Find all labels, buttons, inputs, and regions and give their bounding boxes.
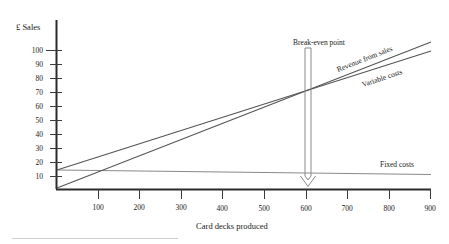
y-tick-label-90: 90 [36, 60, 44, 69]
x-tick-label-200: 200 [133, 203, 145, 212]
series-labels-group: Revenue from sales Variable costs Fixed … [335, 44, 414, 169]
x-tick-label-300: 300 [175, 203, 187, 212]
y-tick-marks [46, 51, 62, 177]
y-tick-label-80: 80 [36, 74, 44, 83]
break-even-arrow-head-inner [305, 176, 311, 180]
axes-group [56, 20, 431, 190]
break-even-arrow [301, 48, 316, 187]
x-tick-label-800: 800 [383, 204, 395, 213]
x-tick-label-500: 500 [258, 204, 270, 213]
series-line-variable-costs [57, 51, 431, 170]
break-even-label: Break-even point [293, 38, 346, 47]
x-tick-label-900: 900 [424, 204, 436, 213]
break-even-arrow-shaft [305, 48, 311, 176]
y-tick-label-60: 60 [36, 102, 44, 111]
chart-canvas: 100 90 80 70 60 50 40 30 20 10 100 200 [0, 0, 449, 244]
y-tick-label-20: 20 [36, 158, 44, 167]
x-tick-labels: 100 200 300 400 500 600 700 800 900 [92, 203, 436, 213]
x-tick-label-100: 100 [92, 203, 104, 212]
y-tick-label-50: 50 [36, 116, 44, 125]
y-tick-label-70: 70 [36, 88, 44, 97]
x-tick-label-400: 400 [216, 204, 228, 213]
y-tick-label-40: 40 [36, 130, 44, 139]
x-tick-label-600: 600 [300, 204, 312, 213]
break-even-arrow-head [301, 176, 316, 187]
series-label-fixed-costs: Fixed costs [380, 160, 414, 169]
break-even-chart: 100 90 80 70 60 50 40 30 20 10 100 200 [0, 0, 449, 244]
y-tick-label-30: 30 [36, 144, 44, 153]
data-series-group [57, 42, 431, 188]
series-label-variable-costs: Variable costs [361, 67, 404, 89]
series-label-revenue-from-sales: Revenue from sales [335, 44, 393, 74]
y-tick-label-100: 100 [32, 46, 44, 55]
x-tick-label-700: 700 [341, 204, 353, 213]
series-line-revenue-from-sales [57, 42, 431, 188]
y-tick-labels: 100 90 80 70 60 50 40 30 20 10 [32, 46, 44, 181]
series-line-fixed-costs [57, 170, 431, 175]
y-tick-label-10: 10 [36, 172, 44, 181]
y-axis-title: £ Sales [16, 22, 40, 32]
x-axis-title: Card decks produced [196, 221, 269, 231]
